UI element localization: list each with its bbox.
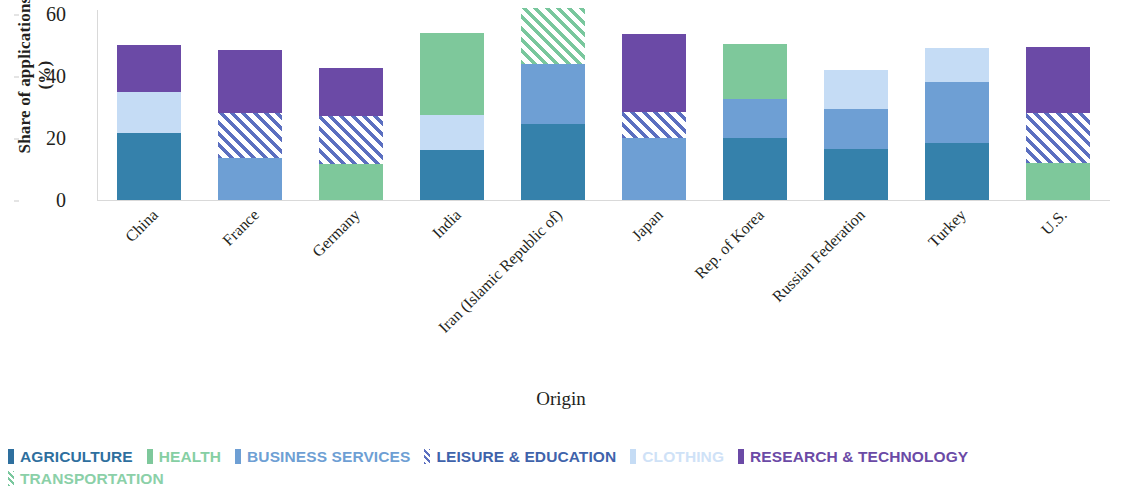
bar-group[interactable]	[420, 8, 484, 200]
bar-segment[interactable]	[1026, 163, 1090, 200]
bar-segment[interactable]	[218, 50, 282, 113]
y-axis-title: Share of applications (%)	[15, 0, 55, 180]
bar-segment[interactable]	[824, 109, 888, 149]
bar-group[interactable]	[117, 8, 181, 200]
y-tick-label: 20	[20, 127, 66, 150]
legend-label: CLOTHING	[642, 446, 724, 468]
legend-swatch	[8, 471, 14, 486]
legend-swatch	[424, 449, 430, 464]
bar-segment[interactable]	[723, 99, 787, 138]
bar-segment[interactable]	[622, 112, 686, 138]
legend-item[interactable]: TRANSPORTATION	[8, 468, 164, 490]
bar-series-container	[98, 8, 1108, 200]
bar-segment[interactable]	[319, 164, 383, 200]
x-axis-line	[98, 200, 1110, 201]
bar-segment[interactable]	[218, 113, 282, 158]
legend-label: HEALTH	[159, 446, 221, 468]
stacked-bar[interactable]	[319, 8, 383, 200]
legend-label: RESEARCH & TECHNOLOGY	[750, 446, 968, 468]
y-tick-label: 0	[20, 189, 66, 212]
legend-item[interactable]: LEISURE & EDUCATION	[424, 446, 616, 468]
bar-group[interactable]	[319, 8, 383, 200]
y-tick-label: 60	[20, 3, 66, 26]
stacked-bar[interactable]	[925, 8, 989, 200]
bar-segment[interactable]	[824, 70, 888, 109]
bar-group[interactable]	[622, 8, 686, 200]
legend-swatch	[235, 449, 241, 464]
bar-segment[interactable]	[622, 34, 686, 111]
legend-label: LEISURE & EDUCATION	[436, 446, 616, 468]
bar-group[interactable]	[824, 8, 888, 200]
bar-segment[interactable]	[319, 68, 383, 116]
stacked-bar[interactable]	[1026, 8, 1090, 200]
stacked-bar[interactable]	[218, 8, 282, 200]
bar-segment[interactable]	[723, 44, 787, 100]
legend-swatch	[630, 449, 636, 464]
bar-segment[interactable]	[521, 8, 585, 64]
legend-swatch	[8, 449, 14, 464]
plot-area: 6040200	[98, 8, 1108, 200]
legend-label: AGRICULTURE	[20, 446, 133, 468]
bar-segment[interactable]	[622, 138, 686, 200]
chart-legend: AGRICULTUREHEALTHBUSINESS SERVICESLEISUR…	[8, 446, 1118, 490]
stacked-bar[interactable]	[723, 8, 787, 200]
stacked-bar[interactable]	[622, 8, 686, 200]
bar-segment[interactable]	[824, 149, 888, 200]
bar-group[interactable]	[1026, 8, 1090, 200]
bar-group[interactable]	[723, 8, 787, 200]
legend-item[interactable]: BUSINESS SERVICES	[235, 446, 410, 468]
bar-segment[interactable]	[319, 116, 383, 164]
y-tick-mark	[14, 138, 19, 139]
legend-label: TRANSPORTATION	[20, 468, 164, 490]
y-tick-mark	[14, 14, 19, 15]
legend-item[interactable]: HEALTH	[147, 446, 221, 468]
bar-segment[interactable]	[117, 133, 181, 200]
bar-group[interactable]	[925, 8, 989, 200]
bar-segment[interactable]	[723, 138, 787, 200]
bar-segment[interactable]	[521, 124, 585, 200]
stacked-bar[interactable]	[117, 8, 181, 200]
legend-label: BUSINESS SERVICES	[247, 446, 410, 468]
y-tick-label: 40	[20, 65, 66, 88]
bar-segment[interactable]	[420, 150, 484, 200]
x-axis-title: Origin	[0, 388, 1122, 410]
bar-segment[interactable]	[218, 158, 282, 200]
chart-root: Share of applications (%) 6040200 ChinaF…	[0, 0, 1122, 491]
bar-segment[interactable]	[925, 48, 989, 82]
bar-segment[interactable]	[117, 45, 181, 91]
legend-swatch	[147, 449, 153, 464]
bar-segment[interactable]	[420, 33, 484, 115]
legend-item[interactable]: AGRICULTURE	[8, 446, 133, 468]
legend-item[interactable]: RESEARCH & TECHNOLOGY	[738, 446, 968, 468]
bar-group[interactable]	[521, 8, 585, 200]
y-tick-mark	[14, 200, 19, 201]
bar-segment[interactable]	[925, 82, 989, 142]
bar-segment[interactable]	[925, 143, 989, 200]
bar-segment[interactable]	[117, 92, 181, 134]
bar-segment[interactable]	[1026, 113, 1090, 163]
bar-segment[interactable]	[1026, 47, 1090, 114]
bar-segment[interactable]	[420, 115, 484, 151]
legend-swatch	[738, 449, 744, 464]
bar-group[interactable]	[218, 8, 282, 200]
bar-segment[interactable]	[521, 64, 585, 124]
stacked-bar[interactable]	[824, 8, 888, 200]
stacked-bar[interactable]	[420, 8, 484, 200]
legend-item[interactable]: CLOTHING	[630, 446, 724, 468]
y-tick-mark	[14, 76, 19, 77]
stacked-bar[interactable]	[521, 8, 585, 200]
